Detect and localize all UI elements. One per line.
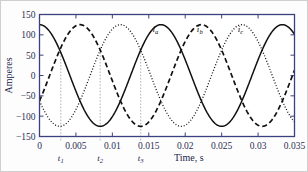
y-axis-title: Amperes bbox=[3, 57, 14, 93]
x-tick-label: 0.01 bbox=[104, 141, 121, 151]
x-tick-label: 0.035 bbox=[284, 141, 306, 151]
series-label-subscript: c bbox=[240, 28, 243, 35]
y-tick-label: −50 bbox=[21, 91, 36, 101]
y-tick-label: 150 bbox=[21, 10, 36, 20]
y-tick-label: −150 bbox=[16, 132, 36, 142]
marker-label-subscript: 3 bbox=[139, 157, 144, 164]
marker-label-t3: t3 bbox=[138, 153, 145, 164]
x-tick-label: 0.025 bbox=[211, 141, 233, 151]
marker-label-subscript: 2 bbox=[100, 157, 104, 164]
marker-label-t2: t2 bbox=[97, 153, 104, 164]
plot-background bbox=[40, 15, 295, 137]
x-tick-label: 0.03 bbox=[250, 141, 267, 151]
chart-canvas: 00.0050.010.0150.020.0250.030.035−150−10… bbox=[1, 1, 308, 172]
x-tick-label: 0 bbox=[37, 141, 42, 151]
x-tick-label: 0.005 bbox=[65, 141, 87, 151]
x-tick-label: 0.02 bbox=[177, 141, 194, 151]
x-tick-label: 0.015 bbox=[138, 141, 160, 151]
figure-container: 00.0050.010.0150.020.0250.030.035−150−10… bbox=[0, 0, 308, 172]
y-tick-label: 50 bbox=[26, 51, 36, 61]
y-tick-label: 100 bbox=[21, 30, 36, 40]
marker-label-t1: t1 bbox=[58, 153, 64, 164]
marker-label-subscript: 1 bbox=[60, 157, 63, 164]
y-tick-label: 0 bbox=[31, 71, 36, 81]
y-tick-label: −100 bbox=[16, 112, 36, 122]
x-axis-title: Time, s bbox=[174, 152, 204, 163]
